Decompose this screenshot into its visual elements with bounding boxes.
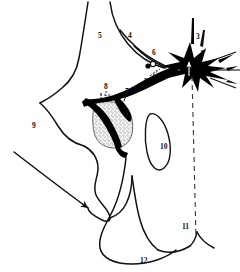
label-6: 6 [152, 49, 156, 57]
label-3: 3 [196, 33, 200, 41]
label-5-prime: 5'' [144, 77, 151, 84]
label-5-top: 5 [98, 32, 102, 40]
label-9-prime: 9' [110, 131, 115, 138]
label-4: 4 [128, 32, 132, 40]
label-11: 11 [182, 223, 189, 231]
label-2: 2 [148, 93, 152, 100]
label-8: 8 [104, 83, 108, 91]
figure-linework [0, 0, 240, 272]
label-10: 10 [160, 143, 168, 151]
label-7: 7 [125, 88, 129, 96]
label-1-prime: 1' [200, 50, 206, 58]
label-9: 9 [32, 122, 36, 130]
anatomical-figure: 5 4 6 3 1' 5'' 8 7 2 9 9' 10 11 12 [0, 0, 240, 272]
label-12: 12 [140, 257, 148, 265]
